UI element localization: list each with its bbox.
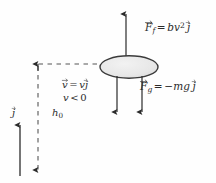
- falling-body-ellipse: [100, 56, 158, 78]
- friction-unit-vector-base: j: [187, 21, 190, 33]
- unit-vector-base: j: [12, 107, 15, 118]
- height-label: h0: [52, 108, 63, 119]
- velocity-sign-value: 0: [80, 92, 86, 103]
- velocity-sign-scalar: v: [63, 92, 69, 103]
- friction-force-symbol: F: [145, 22, 152, 33]
- unit-vector-label: j: [12, 108, 15, 119]
- friction-unit-vector: j: [187, 22, 190, 33]
- gravity-unit-vector-base: j: [193, 80, 196, 92]
- physics-diagram-figure: Ff=bv2j Fg=−mgj v=vj v<0 h0 j: [0, 0, 216, 183]
- unit-vector-symbol: j: [12, 108, 15, 119]
- friction-equals-sign: =: [155, 21, 167, 33]
- velocity-vector-base: v: [62, 79, 68, 90]
- friction-force-label: Ff=bv2j: [145, 22, 190, 35]
- velocity-sign-relation: <: [69, 92, 80, 103]
- velocity-sign-label: v<0: [63, 93, 87, 104]
- velocity-unit-vector-base: j: [85, 79, 88, 90]
- height-subscript: 0: [59, 111, 64, 120]
- velocity-unit-vector: j: [85, 80, 88, 91]
- velocity-equals-sign: =: [68, 79, 79, 90]
- gravity-equals-sign: =: [152, 80, 164, 92]
- gravity-unit-vector: j: [193, 81, 196, 92]
- gravity-force-symbol: F: [140, 81, 147, 92]
- gravity-magnitude-term: −mg: [164, 80, 190, 92]
- velocity-vector-symbol: v: [62, 80, 68, 91]
- friction-force-base: F: [145, 21, 152, 33]
- gravity-force-label: Fg=−mgj: [140, 81, 196, 94]
- velocity-vector-label: v=vj: [62, 80, 88, 91]
- gravity-force-base: F: [140, 80, 147, 92]
- drag-coefficient: b: [167, 21, 174, 33]
- drag-exponent: 2: [180, 21, 185, 30]
